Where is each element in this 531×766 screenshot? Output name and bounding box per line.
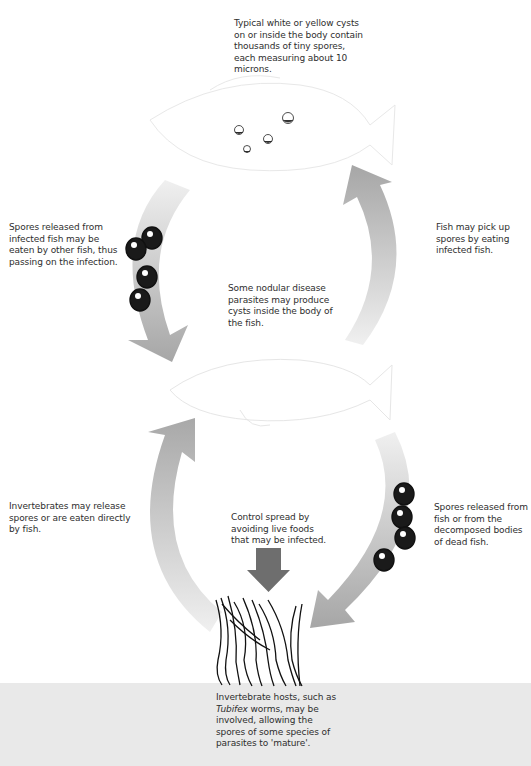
label-internal-cysts: Some nodular disease parasites may produ… (228, 283, 348, 329)
arrow-upper-left (128, 180, 190, 362)
label-invertebrate-hosts: Invertebrate hosts, such as Tubifex worm… (216, 692, 341, 750)
label-spores-eaten: Spores released from infected fish may b… (9, 222, 119, 268)
label-control-spread: Control spread by avoiding live foods th… (231, 512, 331, 547)
label-cysts: Typical white or yellow cysts on or insi… (234, 18, 364, 76)
label-tubifex: Tubifex (216, 704, 248, 714)
arrow-lower-left (148, 418, 222, 632)
label-fish-pick-up: Fish may pick up spores by eating infect… (436, 222, 531, 257)
down-arrow-icon (247, 548, 290, 592)
arrow-upper-right (343, 165, 396, 345)
label-invertebrates: Invertebrates may release spores or are … (9, 501, 134, 536)
lower-fish-outline (170, 359, 392, 426)
label-spores-released: Spores released from fish or from the de… (434, 502, 531, 548)
life-cycle-graphics (0, 0, 531, 766)
upper-fish-outline (150, 76, 395, 171)
label-hosts-prefix: Invertebrate hosts, such as (216, 692, 336, 702)
cyst-icons (235, 113, 294, 153)
tubifex-worms-illustration (216, 596, 302, 686)
